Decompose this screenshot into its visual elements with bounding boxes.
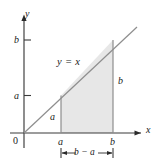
y-tick-label-b: b [14,35,19,45]
line-equation-label: y = x [57,56,80,67]
bracket-arrowhead-left [62,151,68,155]
left-height-label: a [50,112,55,122]
origin-label: 0 [13,136,18,146]
x-axis-arrowhead [135,130,142,135]
base-bracket-label: b − a [74,148,95,158]
x-tick-label-b: b [110,137,115,147]
y-axis-label: y [25,9,29,19]
shaded-trapezoid-region [61,40,113,133]
figure-canvas: y x 0 a b a b y = x a b b − a [0,0,157,166]
bracket-arrowhead-right [107,151,113,155]
x-tick-label-a: a [58,137,63,147]
y-tick-label-a: a [14,91,19,101]
diagram-svg [0,0,157,166]
x-axis-label: x [146,125,150,135]
right-height-label: b [118,76,123,86]
